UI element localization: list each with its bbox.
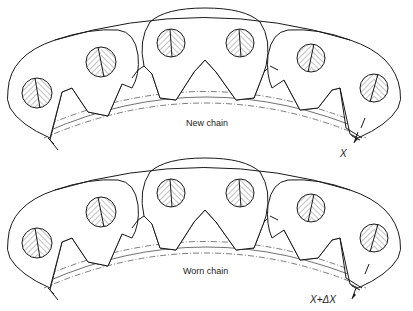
- new-chain-label: New chain: [186, 118, 228, 128]
- dimension-label-x-plus-delta-x: X+ΔX: [309, 294, 336, 305]
- worn-chain-label: Worn chain: [183, 266, 228, 276]
- dimension-label-x: X: [339, 148, 347, 159]
- new-chain-diagram: [7, 8, 400, 150]
- worn-chain-diagram: [7, 158, 400, 300]
